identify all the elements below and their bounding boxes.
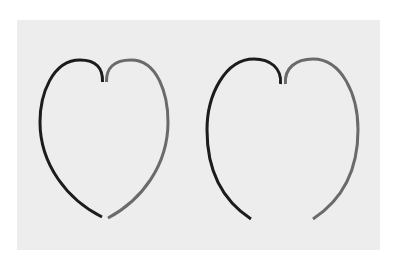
hearts-diagram	[0, 0, 395, 268]
closed-heart-left-stroke	[40, 60, 103, 217]
open-heart-left-stroke	[207, 59, 281, 219]
open-heart	[207, 59, 358, 219]
open-heart-right-stroke	[285, 59, 358, 219]
figure-canvas	[0, 0, 395, 268]
closed-heart-right-stroke	[106, 60, 168, 218]
closed-heart	[40, 60, 168, 218]
